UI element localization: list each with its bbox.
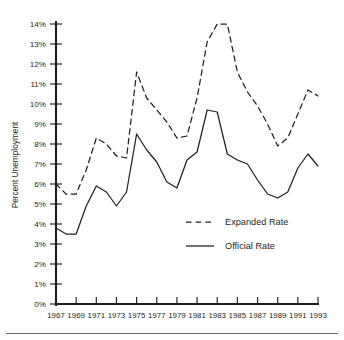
x-tick-label: 1985 bbox=[229, 311, 247, 320]
x-tick-label: 1991 bbox=[289, 311, 307, 320]
x-tick-label: 1983 bbox=[208, 311, 226, 320]
y-tick-label: 14% bbox=[30, 20, 46, 29]
x-tick-label: 1975 bbox=[128, 311, 146, 320]
chart-figure: 0%1%2%3%4%5%6%7%8%9%10%11%12%13%14% 1967… bbox=[0, 0, 344, 340]
x-tick-label: 1977 bbox=[148, 311, 166, 320]
series-line-official-rate bbox=[56, 110, 318, 234]
x-tick-label: 1973 bbox=[108, 311, 126, 320]
chart-legend: Expanded Rate Official Rate bbox=[186, 217, 288, 251]
y-tick-label: 12% bbox=[30, 60, 46, 69]
x-tick-label: 1969 bbox=[67, 311, 85, 320]
footer-rule bbox=[6, 333, 338, 334]
x-tick-label: 1989 bbox=[269, 311, 287, 320]
y-tick-label: 3% bbox=[34, 240, 46, 249]
y-tick-label: 6% bbox=[34, 180, 46, 189]
x-axis-tick-labels: 1967196919711973197519771979198119831985… bbox=[47, 311, 327, 320]
y-tick-label: 13% bbox=[30, 40, 46, 49]
x-tick-label: 1993 bbox=[309, 311, 327, 320]
y-tick-label: 10% bbox=[30, 100, 46, 109]
y-tick-label: 7% bbox=[34, 160, 46, 169]
unemployment-line-chart: 0%1%2%3%4%5%6%7%8%9%10%11%12%13%14% 1967… bbox=[0, 0, 344, 340]
x-tick-label: 1979 bbox=[168, 311, 186, 320]
x-tick-label: 1987 bbox=[249, 311, 267, 320]
legend-label-official-rate: Official Rate bbox=[225, 241, 275, 251]
series-line-expanded-rate bbox=[56, 24, 318, 194]
y-tick-label: 1% bbox=[34, 280, 46, 289]
y-tick-label: 0% bbox=[34, 300, 46, 309]
y-axis-title: Percent Unemployment bbox=[10, 121, 20, 208]
x-tick-label: 1971 bbox=[88, 311, 106, 320]
y-tick-label: 5% bbox=[34, 200, 46, 209]
y-axis-tick-labels: 0%1%2%3%4%5%6%7%8%9%10%11%12%13%14% bbox=[30, 20, 46, 309]
y-tick-label: 2% bbox=[34, 260, 46, 269]
legend-label-expanded-rate: Expanded Rate bbox=[225, 217, 288, 227]
y-tick-label: 11% bbox=[30, 80, 46, 89]
x-tick-label: 1967 bbox=[47, 311, 65, 320]
y-tick-label: 4% bbox=[34, 220, 46, 229]
x-tick-label: 1981 bbox=[188, 311, 206, 320]
y-tick-label: 9% bbox=[34, 120, 46, 129]
y-tick-label: 8% bbox=[34, 140, 46, 149]
